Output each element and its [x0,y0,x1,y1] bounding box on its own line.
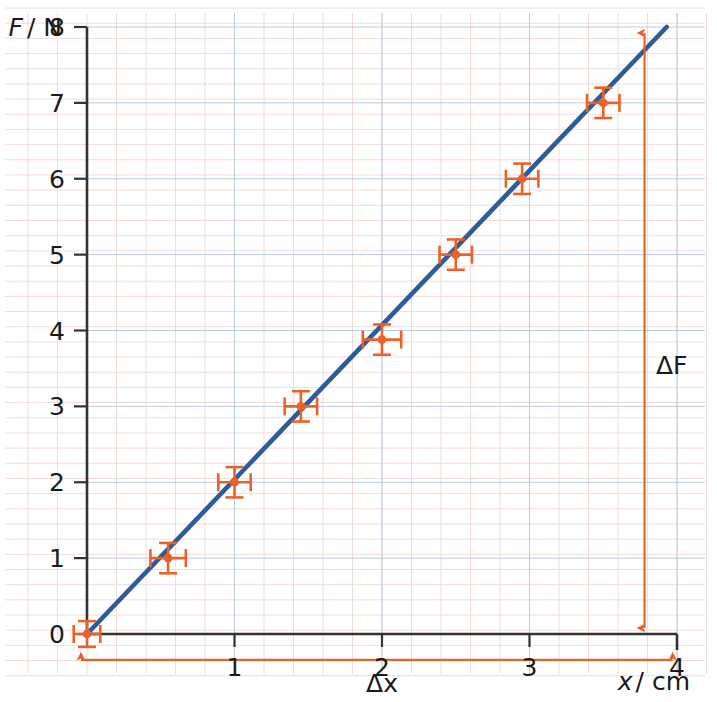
x-axis-title: x/ cm [617,667,690,696]
y-axis-tick-labels: 012345678 [49,13,65,649]
data-point-marker [296,402,305,411]
y-tick-label: 0 [49,620,65,649]
x-axis-title-variable: x [617,667,633,696]
chart-canvas: 012345678 1234 F/ N x/ cm ΔF Δx [0,0,717,702]
x-tick-label: 3 [522,653,538,682]
y-tick-label: 4 [49,317,65,346]
x-axis-title-unit: / cm [636,667,690,696]
x-tick-label: 1 [227,653,243,682]
y-tick-label: 2 [49,468,65,497]
data-point-marker [518,174,527,183]
data-point-marker [164,554,173,563]
y-axis-title-variable: F [9,13,24,42]
data-point-marker [599,98,608,107]
y-tick-label: 5 [49,241,65,270]
data-point-marker [230,478,239,487]
y-axis-title: F/ N [9,13,62,42]
data-point-marker [451,250,460,259]
delta-f-label: ΔF [656,351,687,380]
y-tick-label: 6 [49,165,65,194]
delta-f-symbol: ΔF [656,351,687,380]
y-tick-label: 3 [49,392,65,421]
force-extension-chart-figure: 012345678 1234 F/ N x/ cm ΔF Δx [0,0,717,702]
y-tick-label: 1 [49,544,65,573]
y-axis-title-unit: / N [27,13,62,42]
data-point-marker [378,335,387,344]
data-point-marker [83,630,92,639]
delta-x-symbol: Δx [366,669,398,698]
y-tick-label: 7 [49,89,65,118]
delta-x-label: Δx [366,669,398,698]
